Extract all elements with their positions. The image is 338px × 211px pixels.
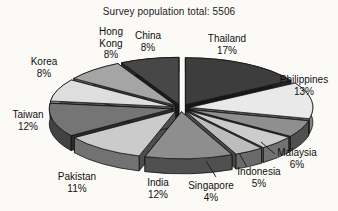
- slice-label-name: Taiwan: [3, 109, 53, 121]
- slice-label-name: Philippines: [269, 74, 338, 86]
- slice-label-india: India12%: [126, 177, 190, 200]
- slice-label-name: India: [126, 177, 190, 189]
- slice-label-value: 13%: [269, 86, 338, 98]
- slice-label-thailand: Thailand17%: [195, 33, 259, 56]
- slice-labels: Thailand17%Philippines13%Malaysia6%Indon…: [0, 0, 338, 211]
- slice-label-philippines: Philippines13%: [269, 74, 338, 97]
- slice-label-name: Indonesia: [227, 166, 291, 178]
- slice-label-value: 8%: [116, 42, 180, 54]
- slice-label-value: 8%: [12, 68, 76, 80]
- slice-label-china: China8%: [116, 30, 180, 53]
- slice-label-name: Malaysia: [265, 147, 329, 159]
- slice-label-name: Korea: [12, 56, 76, 68]
- slice-label-korea: Korea8%: [12, 56, 76, 79]
- slice-label-name: China: [116, 30, 180, 42]
- slice-label-name: Thailand: [195, 33, 259, 45]
- slice-label-taiwan: Taiwan12%: [3, 109, 53, 132]
- slice-label-value: 12%: [126, 189, 190, 201]
- slice-label-name: Pakistan: [45, 171, 109, 183]
- chart-figure: Survey population total: 5506 Thailand17…: [0, 0, 338, 211]
- slice-label-pakistan: Pakistan11%: [45, 171, 109, 194]
- slice-label-value: 12%: [3, 121, 53, 133]
- slice-label-value: 11%: [45, 183, 109, 195]
- slice-label-value: 17%: [195, 45, 259, 57]
